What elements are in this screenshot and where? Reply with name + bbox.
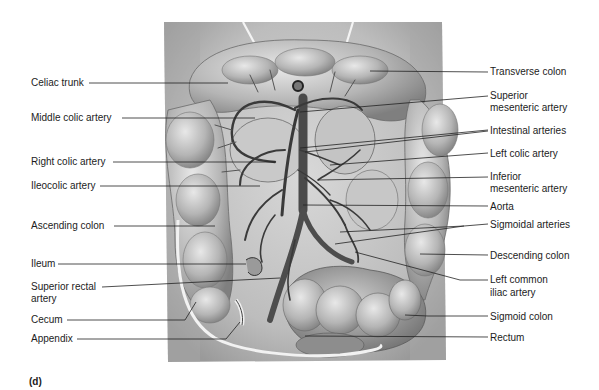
label-aorta: Aorta [490,201,514,213]
label-cecum: Cecum [31,314,63,326]
label-left-colic-artery: Left colic artery [490,148,558,160]
label-superior-mesenteric-artery-line1: Superior [490,90,528,102]
label-inferior-mesenteric-artery-line2: mesenteric artery [490,183,567,195]
label-descending-colon: Descending colon [490,250,570,262]
label-ascending-colon: Ascending colon [31,220,104,232]
label-middle-colic-artery: Middle colic artery [31,112,112,124]
label-inferior-mesenteric-artery-line1: Inferior [490,171,521,183]
label-right-colic-artery: Right colic artery [31,156,105,168]
panel-label: (d) [29,376,42,387]
label-appendix: Appendix [31,333,73,345]
label-celiac-trunk: Celiac trunk [31,77,84,89]
label-superior-rectal-artery-line1: Superior rectal [31,281,96,293]
label-intestinal-arteries: Intestinal arteries [490,125,566,137]
label-ileum: Ileum [31,258,55,270]
label-superior-mesenteric-artery-line2: mesenteric artery [490,102,567,114]
label-left-common-iliac-artery-line2: iliac artery [490,287,536,299]
label-transverse-colon: Transverse colon [490,66,566,78]
label-left-common-iliac-artery-line1: Left common [490,274,548,286]
label-ileocolic-artery: Ileocolic artery [31,180,95,192]
label-superior-rectal-artery-line2: artery [31,293,57,305]
label-sigmoid-colon: Sigmoid colon [490,311,553,323]
label-sigmoidal-arteries: Sigmoidal arteries [490,219,570,231]
label-rectum: Rectum [490,332,524,344]
anatomy-figure: Celiac trunk Middle colic artery Right c… [0,0,599,390]
